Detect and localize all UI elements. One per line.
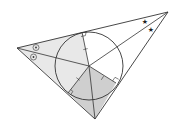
bisector-b [89,12,168,66]
incircle-diagram: ★ ★ [0,0,182,131]
angle-mark-b2-icon: ★ [148,26,154,34]
right-angle-bc-icon [113,77,119,81]
angle-mark-b1-icon: ★ [142,18,148,26]
